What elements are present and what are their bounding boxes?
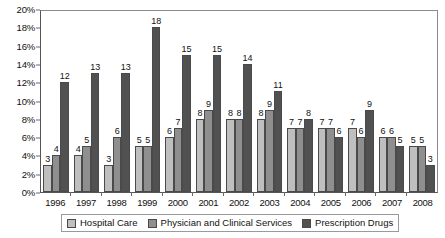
y-axis-tick-label: 0% bbox=[22, 188, 35, 198]
bar-column: 12 bbox=[60, 9, 69, 192]
bar-value-label: 8 bbox=[259, 109, 264, 118]
bar bbox=[387, 137, 396, 192]
bar-value-label: 8 bbox=[237, 109, 242, 118]
bar-column: 4 bbox=[74, 9, 83, 192]
bar-column: 5 bbox=[135, 9, 144, 192]
bar-group: 4513 bbox=[71, 11, 101, 192]
bar-column: 15 bbox=[213, 9, 222, 192]
bar-groups: 3412451336135518671589158814891177877676… bbox=[41, 11, 437, 192]
bar-value-label: 6 bbox=[389, 127, 394, 136]
bar bbox=[418, 146, 427, 192]
bar bbox=[165, 137, 174, 192]
bar-column: 6 bbox=[387, 9, 396, 192]
x-axis-tick-label: 2000 bbox=[162, 196, 193, 210]
chart-legend: Hospital CarePhysician and Clinical Serv… bbox=[61, 214, 399, 232]
bar-value-label: 7 bbox=[297, 118, 302, 127]
bar-column: 7 bbox=[287, 9, 296, 192]
bar bbox=[365, 110, 374, 192]
bar-group: 665 bbox=[376, 11, 406, 192]
bar-value-label: 3 bbox=[428, 155, 433, 164]
bar-column: 9 bbox=[365, 9, 374, 192]
bar-column: 6 bbox=[357, 9, 366, 192]
legend-swatch-icon bbox=[67, 219, 76, 228]
bar bbox=[426, 165, 435, 192]
y-axis-tick-label: 2% bbox=[22, 170, 35, 180]
bar bbox=[357, 137, 366, 192]
bar-column: 8 bbox=[196, 9, 205, 192]
bar-value-label: 6 bbox=[380, 127, 385, 136]
y-axis-tick-label: 4% bbox=[22, 152, 35, 162]
bar-column: 5 bbox=[396, 9, 405, 192]
bar-column: 15 bbox=[182, 9, 191, 192]
bar bbox=[74, 155, 83, 192]
bar-column: 7 bbox=[174, 9, 183, 192]
bar-group: 776 bbox=[315, 11, 345, 192]
bar-group: 769 bbox=[346, 11, 376, 192]
bar-column: 8 bbox=[226, 9, 235, 192]
x-axis-tick-label: 2003 bbox=[254, 196, 285, 210]
bar bbox=[91, 73, 100, 192]
x-axis-tick-label: 2001 bbox=[193, 196, 224, 210]
bar-value-label: 9 bbox=[206, 100, 211, 109]
bar-column: 8 bbox=[257, 9, 266, 192]
plot-area: 3412451336135518671589158814891177877676… bbox=[40, 10, 438, 193]
x-axis-tick-label: 2007 bbox=[377, 196, 408, 210]
bar-column: 14 bbox=[243, 9, 252, 192]
bar bbox=[113, 137, 122, 192]
bar-value-label: 12 bbox=[60, 72, 70, 81]
bar-column: 5 bbox=[82, 9, 91, 192]
bar-group: 6715 bbox=[163, 11, 193, 192]
bar-value-label: 15 bbox=[212, 45, 222, 54]
bar bbox=[196, 119, 205, 192]
bar-value-label: 18 bbox=[151, 17, 161, 26]
y-axis-tick-label: 20% bbox=[17, 5, 35, 15]
bar-value-label: 13 bbox=[90, 63, 100, 72]
bar-value-label: 6 bbox=[336, 127, 341, 136]
bar-value-label: 9 bbox=[367, 100, 372, 109]
bar bbox=[60, 82, 69, 192]
bar bbox=[213, 55, 222, 192]
y-axis-tick-label: 12% bbox=[17, 78, 35, 88]
bar-column: 6 bbox=[113, 9, 122, 192]
bar-value-label: 5 bbox=[411, 136, 416, 145]
bar bbox=[265, 110, 274, 192]
x-axis-tick-label: 1998 bbox=[101, 196, 132, 210]
x-axis-tick-label: 2008 bbox=[407, 196, 438, 210]
bar-value-label: 11 bbox=[273, 81, 282, 90]
y-axis: 0%2%4%6%8%10%12%14%16%18%20% bbox=[0, 10, 40, 193]
bar bbox=[204, 110, 213, 192]
bar bbox=[243, 64, 252, 192]
bar-column: 9 bbox=[265, 9, 274, 192]
x-axis-tick-label: 1997 bbox=[71, 196, 102, 210]
y-axis-tick-label: 6% bbox=[22, 133, 35, 143]
bar bbox=[409, 146, 418, 192]
bar-value-label: 7 bbox=[319, 118, 324, 127]
bar-value-label: 7 bbox=[350, 118, 355, 127]
bar-value-label: 5 bbox=[84, 136, 89, 145]
bar-column: 13 bbox=[121, 9, 130, 192]
bar bbox=[174, 128, 183, 192]
bar-column: 6 bbox=[165, 9, 174, 192]
y-axis-tick-label: 8% bbox=[22, 115, 35, 125]
bar bbox=[257, 119, 266, 192]
bar-column: 8 bbox=[235, 9, 244, 192]
bar-column: 3 bbox=[43, 9, 52, 192]
bar-column: 6 bbox=[335, 9, 344, 192]
bar-group: 3412 bbox=[41, 11, 71, 192]
bar bbox=[296, 128, 305, 192]
bar bbox=[52, 155, 61, 192]
bar-value-label: 6 bbox=[167, 127, 172, 136]
bar-value-label: 5 bbox=[419, 136, 424, 145]
bar-column: 7 bbox=[296, 9, 305, 192]
bar-value-label: 8 bbox=[228, 109, 233, 118]
bar-column: 13 bbox=[91, 9, 100, 192]
x-axis-tick-label: 1999 bbox=[132, 196, 163, 210]
bar-group: 8915 bbox=[193, 11, 223, 192]
bar bbox=[274, 91, 283, 192]
bar-column: 9 bbox=[204, 9, 213, 192]
bar-value-label: 5 bbox=[145, 136, 150, 145]
y-axis-tick-label: 10% bbox=[17, 97, 35, 107]
bar bbox=[152, 27, 161, 192]
bar-value-label: 3 bbox=[45, 155, 50, 164]
bar-value-label: 7 bbox=[176, 118, 181, 127]
